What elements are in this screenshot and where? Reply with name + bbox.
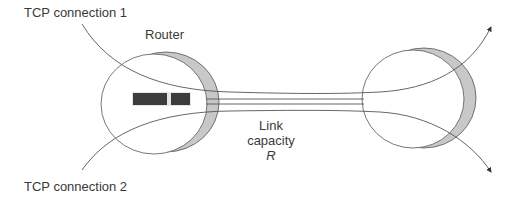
- buffer-packet-1: [133, 93, 167, 105]
- tcp-connection-2-label: TCP connection 2: [24, 180, 127, 193]
- tcp-connection-1-label: TCP connection 1: [24, 6, 127, 19]
- link-capacity-label: Link capacity R: [236, 118, 306, 163]
- buffer-packet-2: [171, 93, 190, 105]
- capacity-symbol: R: [236, 148, 306, 163]
- router-left: [101, 52, 219, 154]
- link: [206, 99, 364, 104]
- link-text: Link: [236, 118, 306, 133]
- diagram-canvas: [0, 0, 517, 202]
- capacity-text: capacity: [236, 133, 306, 148]
- router-right: [362, 48, 476, 148]
- router-label: Router: [145, 28, 184, 41]
